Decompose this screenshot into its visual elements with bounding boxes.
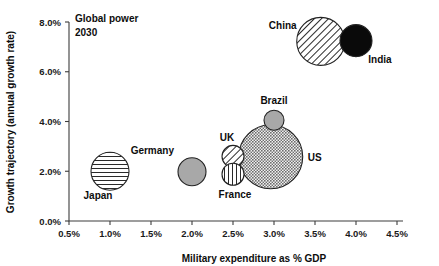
bubble-circle-japan[interactable] (91, 152, 129, 190)
bubble-us[interactable]: US (239, 125, 322, 189)
x-tick-label: 4.5% (386, 228, 408, 239)
bubble-label-us: US (308, 152, 322, 163)
y-tick-label: 6.0% (39, 66, 61, 77)
bubble-circle-france[interactable] (222, 163, 244, 185)
x-axis-title: Military expenditure as % GDP (182, 253, 327, 264)
bubble-circle-china[interactable] (297, 17, 345, 65)
bubble-circle-brazil[interactable] (264, 110, 284, 130)
plot-area: USChinaJapanGermanyUKFranceBrazilIndia (84, 17, 393, 201)
bubble-india[interactable]: India (340, 25, 392, 65)
chart-annotation-line1: Global power (75, 13, 138, 24)
bubble-label-japan: Japan (84, 190, 113, 201)
x-tick-label: 2.5% (222, 228, 244, 239)
bubble-label-germany: Germany (131, 145, 175, 156)
x-tick-label: 3.0% (263, 228, 285, 239)
x-tick-label: 4.0% (345, 228, 367, 239)
bubble-circle-india[interactable] (340, 25, 372, 57)
y-tick-label: 2.0% (39, 166, 61, 177)
bubble-circle-germany[interactable] (178, 158, 206, 186)
x-tick-label: 1.5% (140, 228, 162, 239)
y-axis-title: Growth trajectory (annual growth rate) (5, 31, 16, 213)
bubble-china[interactable]: China (269, 17, 345, 65)
x-tick-label: 0.5% (58, 228, 80, 239)
bubble-label-uk: UK (220, 132, 235, 143)
bubble-uk[interactable]: UK (220, 132, 244, 167)
bubble-germany[interactable]: Germany (131, 145, 206, 186)
x-tick-label: 2.0% (181, 228, 203, 239)
x-tick-label: 1.0% (99, 228, 121, 239)
chart-canvas: USChinaJapanGermanyUKFranceBrazilIndia 0… (0, 0, 439, 266)
bubble-label-brazil: Brazil (260, 95, 287, 106)
bubble-label-china: China (269, 20, 297, 31)
y-tick-label: 8.0% (39, 17, 61, 28)
x-tick-label: 3.5% (304, 228, 326, 239)
bubble-chart: USChinaJapanGermanyUKFranceBrazilIndia 0… (0, 0, 439, 266)
bubble-circle-us[interactable] (239, 125, 303, 189)
y-tick-label: 4.0% (39, 116, 61, 127)
bubble-japan[interactable]: Japan (84, 152, 129, 201)
y-tick-label: 0.0% (39, 216, 61, 227)
chart-annotation-line2: 2030 (75, 27, 98, 38)
bubble-label-france: France (219, 189, 252, 200)
bubble-label-india: India (368, 54, 392, 65)
